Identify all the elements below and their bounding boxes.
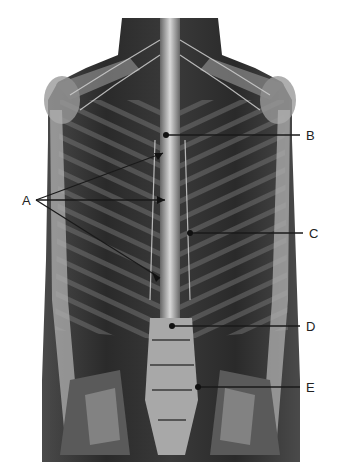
label-d: D <box>306 320 315 333</box>
label-b: B <box>306 129 315 142</box>
label-c: C <box>309 227 318 240</box>
spinal-column <box>160 18 180 318</box>
label-e: E <box>306 381 315 394</box>
anatomy-figure: A B C D E <box>0 0 339 476</box>
label-a: A <box>22 194 31 207</box>
torso-illustration <box>0 0 339 476</box>
